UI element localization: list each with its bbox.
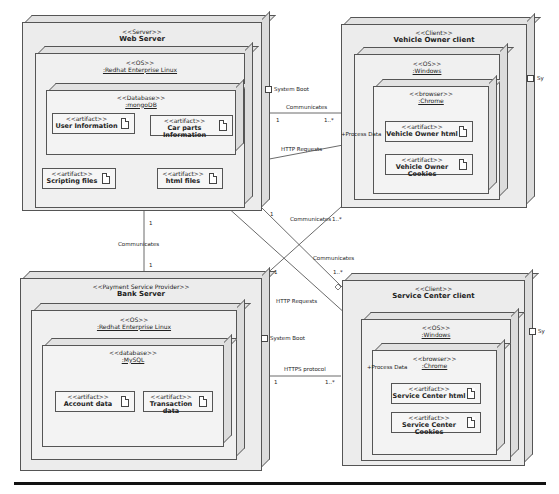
vehicle-client-browser-node[interactable]: <<browser>> :Chrome <<artifact>> Vehicle… <box>373 86 489 194</box>
service-client-os-node[interactable]: <<OS>> :Windows <<browser>> :Chrome <<ar… <box>361 319 511 461</box>
web-vehicle-label: Communicates <box>286 104 327 110</box>
bank-server-node[interactable]: <<Payment Service Provider>> Bank Server… <box>20 278 262 471</box>
mongodb-node[interactable]: <<Database>> :mongoDB <<artifact>> User … <box>46 90 236 155</box>
bank-server-port[interactable] <box>261 335 268 342</box>
service-client-port[interactable] <box>529 328 536 335</box>
web-service-mult-b: 1..* <box>333 269 343 275</box>
artifact-service-center-html[interactable]: <<artifact>> Service Center html <box>391 383 481 404</box>
os-name: :Windows <box>362 332 510 339</box>
document-icon <box>121 396 129 407</box>
service-client-name: Service Center client <box>343 293 524 301</box>
http-service-label: HTTP Requests <box>276 298 317 304</box>
artifact-html-files[interactable]: <<artifact>> html files <box>157 168 223 189</box>
http-vehicle-label: HTTP Requests <box>281 146 322 152</box>
mysql-node[interactable]: <<database>> :MySQL <<artifact>> Account… <box>42 345 224 447</box>
web-server-port-label: System Boot <box>274 86 309 92</box>
service-center-client-node[interactable]: <<Client>> Service Center client <<OS>> … <box>342 280 525 466</box>
web-vehicle-mult-a: 1 <box>276 117 280 123</box>
bank-service-label: HTTPS protocol <box>284 366 326 372</box>
bank-server-port-label: System Boot <box>270 335 305 341</box>
web-bank-mult-a: 1 <box>149 220 153 226</box>
bank-vehicle-mult-b: 1..* <box>332 216 342 222</box>
artifact-vehicle-owner-cookies[interactable]: <<artifact>> Vehicle Owner Cookies <box>385 154 473 175</box>
bank-vehicle-mult-a: 1 <box>274 269 278 275</box>
artifact-scripting-files[interactable]: <<artifact>> Scripting files <box>42 168 116 189</box>
web-service-mult-a: 1 <box>270 211 274 217</box>
browser-name: :Chrome <box>374 98 488 105</box>
page-divider-rule <box>14 482 546 485</box>
artifact-user-information[interactable]: <<artifact>> User Information <box>52 113 135 134</box>
document-icon <box>467 417 475 428</box>
mongodb-name: :mongoDB <box>47 102 235 109</box>
artifact-vehicle-owner-html[interactable]: <<artifact>> Vehicle Owner html <box>385 121 473 142</box>
bank-service-mult-a: 1 <box>274 379 278 385</box>
service-client-port-label: Sy <box>538 328 545 334</box>
web-server-port[interactable] <box>265 86 272 93</box>
http-vehicle-target-label: +Process Data <box>341 131 381 137</box>
vehicle-owner-client-node[interactable]: <<Client>> Vehicle Owner client <<OS>> :… <box>341 24 527 208</box>
document-icon <box>219 120 227 131</box>
artifact-service-center-cookies[interactable]: <<artifact>> Service Center Cookies <box>391 412 481 433</box>
database-name: :MySQL <box>43 357 223 364</box>
bank-server-os-node[interactable]: <<OS>> :Redhat Enterprise Linux <<databa… <box>31 310 237 460</box>
web-service-label: Communicates <box>313 255 354 261</box>
web-bank-label: Communicates <box>118 241 159 247</box>
document-icon <box>467 388 475 399</box>
artifact-account-data[interactable]: <<artifact>> Account data <box>55 391 135 412</box>
vehicle-client-port-label: Sy <box>537 75 544 81</box>
vehicle-client-name: Vehicle Owner client <box>342 37 526 45</box>
document-icon <box>102 173 110 184</box>
vehicle-client-os-node[interactable]: <<OS>> :Windows <<browser>> :Chrome <<ar… <box>354 54 500 200</box>
vehicle-client-port[interactable] <box>527 75 534 82</box>
artifact-transaction-data[interactable]: <<artifact>> Transaction data <box>143 391 213 412</box>
http-service-target-label: +Process Data <box>367 364 407 370</box>
bank-server-name: Bank Server <box>21 291 261 299</box>
os-name: :Windows <box>355 68 499 75</box>
document-icon <box>459 159 467 170</box>
bank-vehicle-label: Communicates <box>290 216 331 222</box>
bank-service-mult-b: 1..* <box>325 379 335 385</box>
web-vehicle-mult-b: 1..* <box>324 117 334 123</box>
document-icon <box>199 396 207 407</box>
artifact-car-parts-information[interactable]: <<artifact>> Car parts Information <box>150 115 233 136</box>
document-icon <box>209 173 217 184</box>
os-name: :Redhat Enterprise Linux <box>32 324 236 331</box>
web-server-os-node[interactable]: <<OS>> :Redhat Enterprise Linux <<Databa… <box>35 53 245 208</box>
web-server-node[interactable]: <<Server>> Web Server <<OS>> :Redhat Ent… <box>22 22 262 211</box>
web-bank-mult-b: 1 <box>149 262 153 268</box>
web-os-name: :Redhat Enterprise Linux <box>36 67 244 74</box>
web-server-name: Web Server <box>23 36 261 44</box>
document-icon <box>459 126 467 137</box>
document-icon <box>121 118 129 129</box>
